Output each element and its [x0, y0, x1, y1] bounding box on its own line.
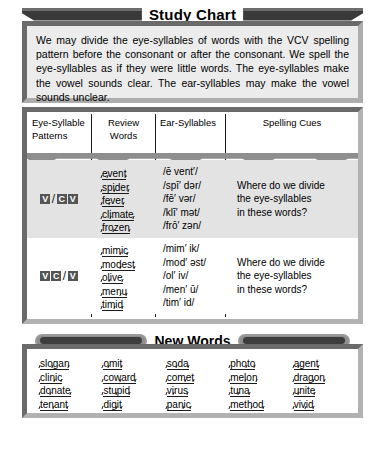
spelling-cue-line: Where do we divide	[237, 179, 358, 193]
syllable-word-row: vivid	[291, 396, 354, 410]
syllable-divided-word: soda	[164, 357, 192, 371]
syllable-part: ive	[110, 272, 123, 284]
pattern-badges-vcv: VC/V	[40, 269, 78, 283]
pattern-badge-v: V	[40, 271, 50, 281]
pattern-slash: /	[52, 192, 55, 206]
syllable-word-row: agent	[291, 355, 354, 369]
pattern-badge-c: C	[57, 194, 67, 204]
syllable-part: pid	[117, 385, 130, 397]
pattern-badges-vcv: V/CV	[40, 192, 78, 206]
syllable-word-row: fever	[99, 192, 155, 206]
column-header-ear-syllables: Ear-Syllables	[156, 117, 225, 130]
new-words-column: sloganclinicdonatetenant	[37, 355, 100, 413]
syllable-part: rus	[174, 385, 188, 397]
syllable-word-row: virus	[164, 382, 227, 396]
syllable-divided-word: frozen	[99, 221, 133, 235]
syllable-word-row: event	[99, 165, 155, 179]
syllable-table: Eye-Syllable Patterns Review Words Ear-S…	[22, 107, 363, 324]
syllable-word-row: digit	[100, 396, 163, 410]
page-title: Study Chart	[149, 6, 236, 23]
ear-syllable-line: /ol′ iv/	[163, 269, 225, 283]
syllable-word-row: spider	[99, 179, 155, 193]
syllable-divided-word: fever	[99, 194, 127, 208]
syllable-divided-word: stupid	[100, 384, 133, 398]
syllable-word-row: clinic	[37, 369, 100, 383]
spelling-cue-line: in these words?	[237, 283, 358, 297]
syllable-word-row: comet	[164, 369, 227, 383]
intro-panel: We may divide the eye-syllables of words…	[22, 21, 363, 103]
new-words-column: agentdragonunitevivid	[291, 355, 354, 413]
syllable-word-row: climate	[99, 206, 155, 220]
syllable-divided-word: clinic	[37, 371, 65, 385]
syllable-part: nite	[299, 385, 315, 397]
syllable-divided-word: coward	[100, 371, 138, 385]
syllable-part: slo	[40, 358, 53, 370]
syllable-part: mim	[102, 245, 121, 257]
syllable-divided-word: omit	[100, 357, 125, 371]
syllable-word-row: slogan	[37, 355, 100, 369]
intro-paragraph: We may divide the eye-syllables of words…	[36, 33, 349, 104]
syllable-word-row: tenant	[37, 396, 100, 410]
column-header-line: Eye-Syllable	[32, 117, 91, 130]
table-inner: Eye-Syllable Patterns Review Words Ear-S…	[27, 112, 358, 319]
pattern-badge-v: V	[68, 271, 78, 281]
syllable-divided-word: method	[227, 398, 266, 412]
syllable-divided-word: digit	[100, 398, 124, 412]
pattern-badge-c: C	[51, 271, 61, 281]
pattern-badge-v: V	[68, 194, 78, 204]
cell-review-words: mimicmodestolivemenutimid	[93, 238, 155, 314]
syllable-part: da	[177, 358, 188, 370]
syllable-word-row: frozen	[99, 219, 155, 233]
column-header-review-words: Review Words	[92, 117, 155, 142]
column-header-eye-syllable-patterns: Eye-Syllable Patterns	[29, 117, 91, 142]
syllable-divided-word: timid	[99, 298, 126, 312]
syllable-part: pho	[230, 358, 247, 370]
ear-syllable-line: /spī′ dər/	[163, 179, 225, 193]
pattern-slash: /	[63, 269, 66, 283]
syllable-divided-word: agent	[291, 357, 322, 371]
syllable-word-row: panic	[164, 396, 227, 410]
cell-ear-syllables: /mim′ ik//mod′ əst//ol′ iv//men′ ū//tim′…	[158, 238, 225, 314]
column-header-line: Spelling Cues	[226, 117, 358, 130]
new-words-column: omitcowardstupiddigit	[100, 355, 163, 413]
ear-syllable-line: /mim′ ik/	[163, 242, 225, 256]
cell-spelling-cues: Where do we dividethe eye-syllablesin th…	[227, 160, 358, 238]
column-header-line: Words	[92, 130, 155, 143]
syllable-word-row: omit	[100, 355, 163, 369]
syllable-divided-word: spider	[99, 181, 132, 195]
ear-syllable-line: /men′ ū/	[163, 283, 225, 297]
ear-syllable-line: /klī′ mət/	[163, 206, 225, 220]
syllable-word-row: tuna	[227, 382, 290, 396]
column-header-line: Review	[92, 117, 155, 130]
syllable-part: to	[247, 358, 255, 370]
syllable-part: mit	[109, 358, 122, 370]
column-header-line: Ear-Syllables	[160, 117, 225, 130]
syllable-part: tu	[230, 385, 238, 397]
cell-eye-syllable-pattern: VC/V	[27, 238, 91, 314]
syllable-divided-word: modest	[99, 258, 138, 272]
study-chart-page: Study Chart We may divide the eye-syllab…	[0, 0, 385, 449]
ribbon-left-decoration	[22, 8, 142, 21]
syllable-word-row: melon	[227, 369, 290, 383]
syllable-word-row: menu	[99, 283, 155, 297]
syllable-part: stu	[103, 385, 116, 397]
syllable-part: vent	[108, 168, 127, 180]
ear-syllable-line: /mod′ əst/	[163, 256, 225, 270]
syllable-part: fro	[102, 222, 114, 234]
syllable-divided-word: unite	[291, 384, 319, 398]
pattern-badge-v: V	[40, 194, 50, 204]
ear-syllable-line: /fē′ vər/	[163, 192, 225, 206]
syllable-word-row: modest	[99, 256, 155, 270]
syllable-word-row: donate	[37, 382, 100, 396]
syllable-word-row: soda	[164, 355, 227, 369]
syllable-divided-word: event	[99, 167, 129, 181]
syllable-divided-word: comet	[164, 371, 197, 385]
syllable-part: so	[167, 358, 178, 370]
cell-eye-syllable-pattern: V/CV	[27, 160, 91, 238]
syllable-divided-word: virus	[164, 384, 191, 398]
syllable-part: drag	[294, 372, 314, 384]
table-header-row: Eye-Syllable Patterns Review Words Ear-S…	[27, 112, 358, 153]
cell-ear-syllables: /ē vent′//spī′ dər//fē′ vər//klī′ mət//f…	[158, 160, 225, 238]
syllable-divided-word: mimic	[99, 244, 131, 258]
syllable-part: com	[167, 372, 186, 384]
